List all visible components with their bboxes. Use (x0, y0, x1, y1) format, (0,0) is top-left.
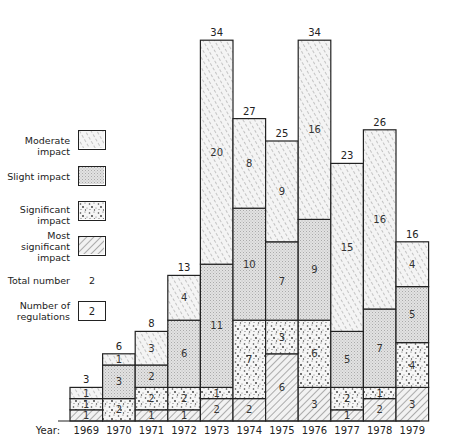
segment-value-label: 3 (311, 399, 317, 410)
year-tick-label: 1969 (74, 425, 99, 436)
legend-label-significant: Significant impact (0, 204, 70, 226)
legend-total-example: 2 (86, 275, 98, 286)
year-tick-label: 1979 (400, 425, 425, 436)
segment-value-label: 5 (344, 354, 350, 365)
segment-value-label: 4 (181, 292, 187, 303)
legend-count-label: Number of regulations (0, 300, 70, 322)
segment-value-label: 11 (210, 320, 223, 331)
x-axis-title: Year: (35, 425, 60, 436)
legend-swatch-moderate (78, 130, 106, 150)
segment-value-label: 20 (210, 147, 223, 158)
segment-value-label: 2 (148, 371, 154, 382)
segment-value-label: 1 (148, 410, 154, 421)
segment-value-label: 16 (308, 124, 321, 135)
stacked-bar-chart: 1113231612238126413211120342710827637925… (0, 0, 455, 447)
segment-value-label: 6 (279, 382, 285, 393)
year-tick-label: 1973 (204, 425, 229, 436)
bar-total-label: 3 (83, 374, 89, 385)
segment-value-label: 6 (181, 348, 187, 359)
segment-value-label: 2 (377, 404, 383, 415)
segment-value-label: 8 (246, 158, 252, 169)
segment-value-label: 1 (83, 388, 89, 399)
legend-label-most-significant: Most significant impact (0, 230, 70, 263)
segment-value-label: 3 (148, 343, 154, 354)
year-tick-label: 1972 (171, 425, 196, 436)
legend-swatch-slight (78, 166, 106, 186)
year-tick-label: 1975 (269, 425, 294, 436)
legend-count-box: 2 (78, 301, 106, 321)
segment-value-label: 4 (409, 259, 415, 270)
year-tick-label: 1971 (139, 425, 164, 436)
segment-value-label: 7 (279, 276, 285, 287)
bar-total-label: 8 (148, 318, 154, 329)
segment-value-label: 1 (83, 399, 89, 410)
segment-value-label: 10 (243, 259, 256, 270)
segment-value-label: 3 (116, 376, 122, 387)
segment-value-label: 5 (409, 309, 415, 320)
segment-value-label: 2 (116, 404, 122, 415)
legend-label-slight: Slight impact (0, 171, 70, 182)
segment-value-label: 9 (279, 186, 285, 197)
segment-value-label: 2 (148, 393, 154, 404)
year-tick-label: 1978 (367, 425, 392, 436)
segment-value-label: 1 (214, 388, 220, 399)
segment-value-label: 4 (409, 360, 415, 371)
bar-total-label: 25 (276, 128, 289, 139)
segment-value-label: 1 (116, 354, 122, 365)
bar-total-label: 16 (406, 229, 419, 240)
segment-value-label: 2 (214, 404, 220, 415)
year-tick-label: 1976 (302, 425, 327, 436)
segment-value-label: 15 (341, 242, 354, 253)
legend-swatch-significant (78, 201, 106, 221)
bar-total-label: 6 (116, 341, 122, 352)
legend-total-label: Total number (0, 275, 70, 286)
segment-value-label: 1 (181, 410, 187, 421)
year-tick-label: 1974 (237, 425, 262, 436)
segment-value-label: 1 (344, 410, 350, 421)
segment-value-label: 3 (279, 332, 285, 343)
segment-value-label: 6 (311, 348, 317, 359)
bar-total-label: 23 (341, 150, 354, 161)
segment-value-label: 7 (246, 354, 252, 365)
bar-total-label: 34 (308, 27, 321, 38)
bar-total-label: 27 (243, 106, 256, 117)
bars-group: 1113231612238126413211120342710827637925… (70, 27, 429, 421)
segment-value-label: 2 (246, 404, 252, 415)
segment-value-label: 3 (409, 399, 415, 410)
bar-total-label: 26 (373, 117, 386, 128)
legend-label-moderate: Moderate impact (0, 135, 70, 157)
segment-value-label: 9 (311, 264, 317, 275)
segment-value-label: 1 (83, 410, 89, 421)
bar-total-label: 34 (210, 27, 223, 38)
x-axis-ticks: 1969197019711972197319741975197619771978… (74, 425, 425, 436)
year-tick-label: 1977 (334, 425, 359, 436)
segment-value-label: 2 (344, 393, 350, 404)
year-tick-label: 1970 (106, 425, 131, 436)
segment-value-label: 16 (373, 214, 386, 225)
segment-value-label: 7 (377, 343, 383, 354)
bar-total-label: 13 (178, 262, 191, 273)
segment-value-label: 2 (181, 393, 187, 404)
segment-value-label: 1 (377, 388, 383, 399)
legend-swatch-most-significant (78, 236, 106, 256)
